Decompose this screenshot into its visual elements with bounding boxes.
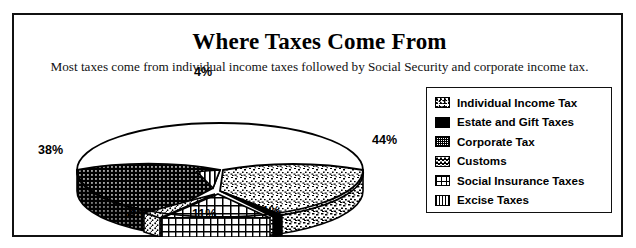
- vertical-lines-swatch-icon: [435, 195, 450, 206]
- legend-label: Excise Taxes: [457, 194, 529, 206]
- speckle-swatch-icon: [435, 97, 450, 108]
- pie-label-estate-and-gift: 1%: [262, 204, 280, 218]
- dense-dot-swatch-icon: [435, 136, 450, 147]
- legend-label: Customs: [457, 155, 507, 167]
- slice-side-customs: [144, 213, 160, 237]
- grid-swatch-icon: [435, 175, 450, 186]
- legend-label: Individual Income Tax: [457, 97, 577, 109]
- chart-legend: Individual Income Tax Estate and Gift Ta…: [426, 87, 612, 213]
- pie-label-individual-income: 44%: [372, 133, 397, 147]
- legend-item-excise-taxes: Excise Taxes: [435, 191, 611, 211]
- pie-label-corporate-tax: 11%: [192, 207, 216, 221]
- legend-label: Social Insurance Taxes: [457, 175, 584, 187]
- legend-label: Corporate Tax: [457, 136, 535, 148]
- legend-item-corporate-tax: Corporate Tax: [435, 132, 611, 152]
- pie-chart: 4% 44% 38% 2% 11% 1%: [14, 77, 426, 237]
- legend-label: Estate and Gift Taxes: [457, 116, 574, 128]
- legend-item-social-insurance-taxes: Social Insurance Taxes: [435, 171, 611, 191]
- slice-side-estate-and-gift-taxes: [273, 215, 282, 237]
- pie-label-excise: 4%: [194, 65, 212, 79]
- legend-item-estate-and-gift-taxes: Estate and Gift Taxes: [435, 113, 611, 133]
- page-title: Where Taxes Come From: [14, 29, 625, 55]
- legend-item-individual-income-tax: Individual Income Tax: [435, 93, 611, 113]
- pie-label-social-insurance: 38%: [38, 143, 63, 157]
- figure-frame: Where Taxes Come From Most taxes come fr…: [12, 13, 623, 237]
- legend-item-customs: Customs: [435, 152, 611, 172]
- pie-label-customs: 2%: [127, 205, 145, 219]
- chart-subtitle: Most taxes come from individual income t…: [14, 59, 625, 75]
- light-speckle-swatch-icon: [435, 156, 450, 167]
- chart-figure: Where Taxes Come From Most taxes come fr…: [0, 0, 636, 248]
- solid-black-swatch-icon: [435, 117, 450, 128]
- pie-chart-svg: [14, 77, 426, 237]
